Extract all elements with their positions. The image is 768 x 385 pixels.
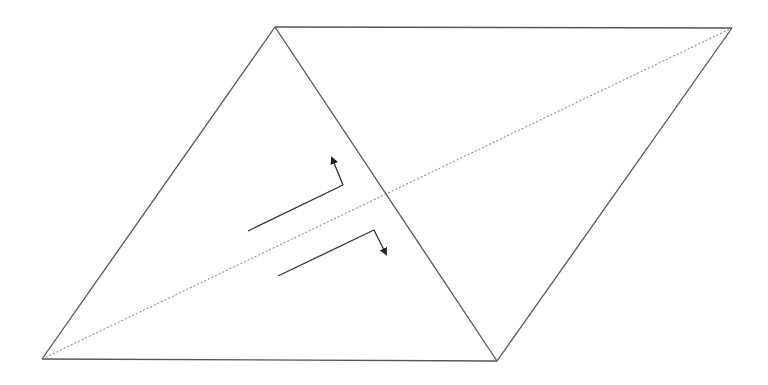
long-diagonal [42,28,732,359]
right-edge [497,28,732,361]
lower-shear-arrow [278,230,386,276]
top-edge [275,27,732,28]
rhombus-edges [42,27,732,361]
rhombus-diagram [0,0,768,385]
shear-arrows [248,158,386,276]
upper-shear-arrow [248,158,343,231]
left-edge [42,27,275,359]
bottom-edge [42,359,497,361]
